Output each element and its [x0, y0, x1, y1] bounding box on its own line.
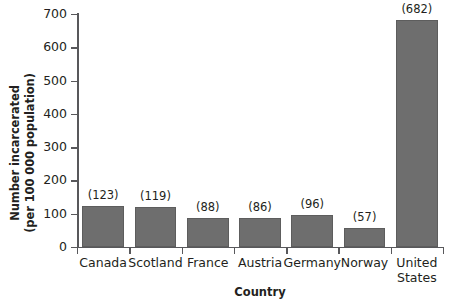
bar-value-label: (119): [140, 191, 171, 203]
y-axis-tick-mark: [71, 114, 77, 115]
bar-value-label: (88): [196, 202, 220, 214]
bar-value-label: (682): [401, 4, 432, 16]
y-axis-tick-mark: [71, 47, 77, 48]
bar: [291, 215, 333, 247]
bar: [135, 207, 177, 247]
bar: [396, 20, 438, 247]
x-axis-category-label: Austria: [238, 256, 282, 271]
x-axis-category-label: Germany: [284, 256, 341, 271]
bar: [82, 206, 124, 247]
bar-chart: Number incarcerated (per 100 000 populat…: [0, 0, 454, 304]
x-axis-tick-mark: [129, 247, 130, 254]
x-axis-category-label: Canada: [79, 256, 127, 271]
x-axis-category-label: Scotland: [128, 256, 182, 271]
y-axis-tick-mark: [71, 180, 77, 181]
x-axis-tick-mark: [182, 247, 183, 254]
x-axis-tick-mark: [234, 247, 235, 254]
bar: [239, 218, 281, 247]
x-axis-tick-mark: [77, 247, 78, 254]
y-axis-title: Number incarcerated (per 100 000 populat…: [0, 33, 46, 273]
bar-value-label: (96): [300, 199, 324, 211]
y-axis-tick-label: 500: [43, 74, 67, 87]
y-axis-tick-mark: [71, 81, 77, 82]
y-axis-title-line-2: (per 100 000 population): [23, 73, 38, 233]
y-axis-tick-mark: [71, 214, 77, 215]
x-axis-tick-mark: [286, 247, 287, 254]
bar: [187, 218, 229, 247]
bar: [344, 228, 386, 247]
y-axis-tick-label: 300: [43, 141, 67, 154]
x-axis-category-label: France: [187, 256, 229, 271]
bar-value-label: (86): [248, 202, 272, 214]
y-axis-tick-label: 100: [43, 207, 67, 220]
bar-value-label: (57): [353, 212, 377, 224]
y-axis-tick-label: 200: [43, 174, 67, 187]
x-axis-tick-mark: [443, 247, 444, 254]
y-axis-tick-label: 0: [59, 241, 67, 254]
y-axis-tick-label: 600: [43, 41, 67, 54]
x-axis-tick-mark: [391, 247, 392, 254]
x-axis-tick-mark: [338, 247, 339, 254]
x-axis-category-label: Norway: [341, 256, 388, 271]
y-axis-tick-label: 700: [43, 8, 67, 21]
bar-value-label: (123): [88, 190, 119, 202]
x-axis-category-label: United States: [396, 256, 437, 286]
y-axis-tick-label: 400: [43, 108, 67, 121]
plot-area: 0100200300400500600700(123)(119)(88)(86)…: [77, 14, 443, 247]
x-axis-title: Country: [77, 285, 443, 299]
y-axis-tick-mark: [71, 147, 77, 148]
y-axis-tick-mark: [71, 14, 77, 15]
y-axis-title-line-1: Number incarcerated: [8, 85, 23, 221]
